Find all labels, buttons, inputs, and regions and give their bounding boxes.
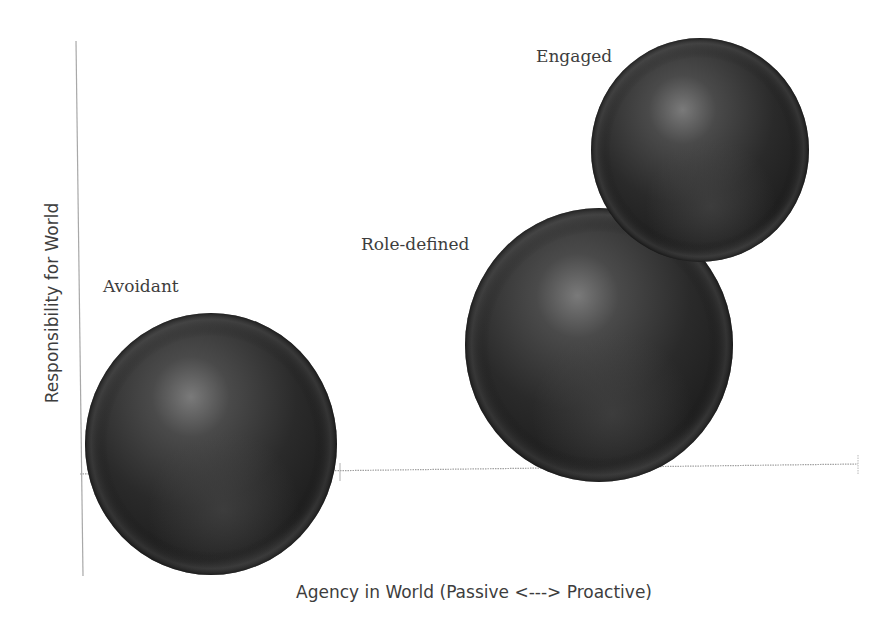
chart-canvas <box>0 0 892 621</box>
bubble-engaged <box>591 38 809 262</box>
bubble-avoidant <box>85 313 337 575</box>
bubble-label-engaged: Engaged <box>536 46 612 66</box>
bubble-chart: Avoidant Role-defined Engaged Responsibi… <box>0 0 892 621</box>
y-axis-line <box>76 41 83 576</box>
x-axis-title: Agency in World (Passive <---> Proactive… <box>279 582 669 602</box>
bubble-label-avoidant: Avoidant <box>103 276 179 296</box>
bubble-label-role-defined: Role-defined <box>361 234 469 254</box>
y-axis-title: Responsibility for World <box>42 198 62 408</box>
